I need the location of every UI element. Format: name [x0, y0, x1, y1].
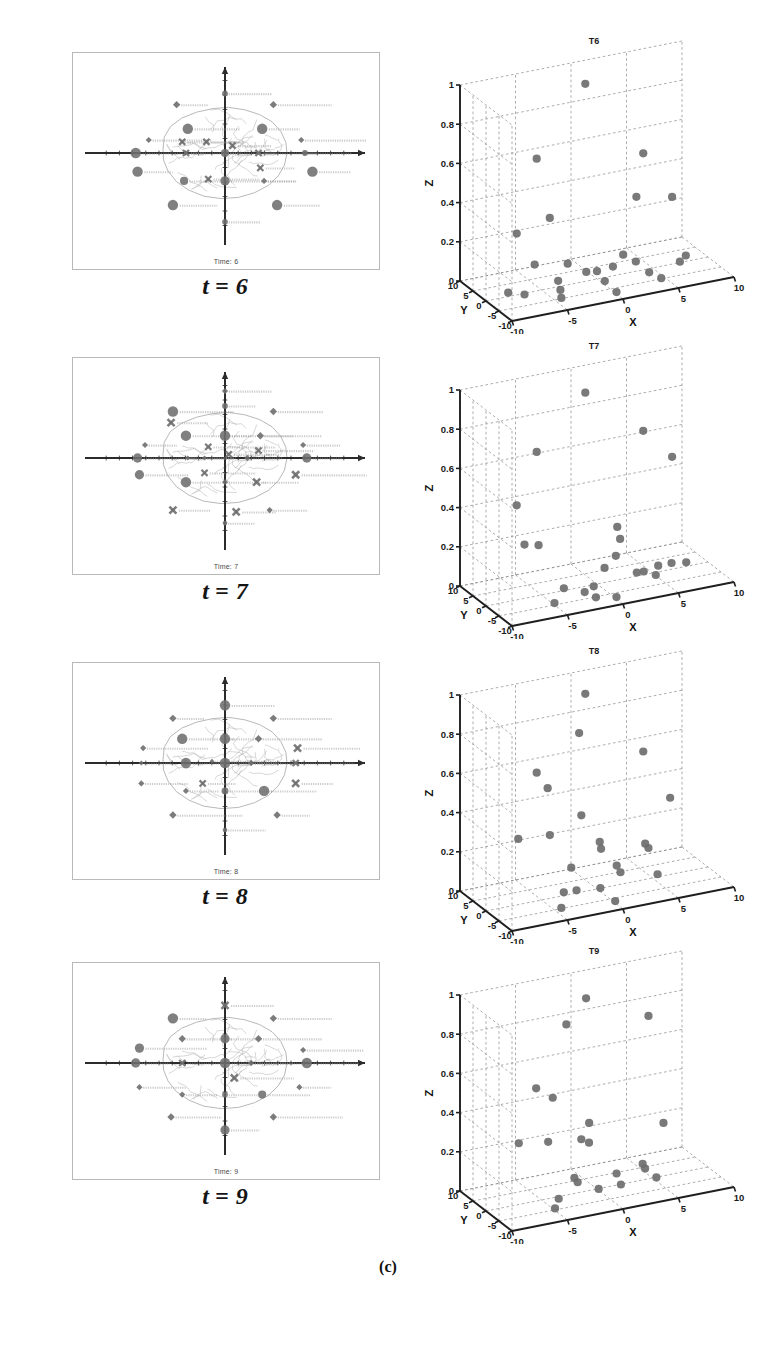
scatter-point	[562, 1020, 570, 1028]
brain-point-circle-marker	[222, 403, 228, 409]
scatter-point	[550, 599, 558, 607]
brain-point-circle-marker	[181, 430, 191, 440]
brain-point-circle-marker	[220, 176, 229, 185]
x-axis-label: X	[629, 926, 637, 938]
brain-point-diamond-marker	[248, 760, 254, 766]
brain-point-circle-marker	[222, 787, 229, 794]
brain-point-cross-marker	[197, 777, 209, 789]
scatter-point	[546, 831, 554, 839]
brain-point-circle-marker	[181, 477, 191, 487]
equals-sign: =	[215, 578, 230, 604]
scatter-point	[668, 193, 676, 201]
brain-point-diamond-marker	[270, 1015, 277, 1022]
svg-text:-5: -5	[568, 620, 577, 631]
scatter-point	[520, 290, 528, 298]
scatter-point	[575, 729, 583, 737]
svg-text:0: 0	[625, 914, 630, 925]
brain-map-panel: Time: 6	[72, 52, 380, 270]
brain-point-circle-marker	[258, 1091, 266, 1099]
brain-point-circle-marker	[177, 734, 187, 744]
scatter-point	[667, 559, 675, 567]
brain-point-circle-marker	[220, 734, 230, 744]
scatter-point	[581, 80, 589, 88]
brain-point-diamond-marker	[139, 761, 144, 766]
svg-text:10: 10	[734, 892, 745, 903]
svg-text:1: 1	[449, 989, 455, 1000]
brain-point-diamond-marker	[273, 811, 280, 818]
brain-point-diamond-marker	[248, 1060, 254, 1066]
z-axis-label: Z	[423, 789, 435, 796]
brain-point-circle-marker	[168, 200, 178, 210]
scatter-point	[582, 994, 590, 1002]
scatter-point	[682, 558, 690, 566]
brain-point-circle-marker	[220, 1125, 229, 1134]
time-value: 6	[236, 273, 248, 299]
panel-time-caption: t = 6	[72, 273, 378, 300]
figure-caption: (c)	[0, 1258, 776, 1276]
svg-text:10: 10	[734, 1192, 745, 1203]
scatter-point	[639, 427, 647, 435]
scatter-point	[546, 214, 554, 222]
time-value: 7	[236, 578, 248, 604]
brain-point-circle-marker	[131, 1058, 140, 1067]
time-variable: t	[202, 273, 209, 299]
svg-text:10: 10	[448, 280, 459, 291]
svg-text:-10: -10	[498, 1230, 512, 1241]
scatter-point	[617, 1180, 625, 1188]
scatter-point	[668, 453, 676, 461]
brain-markers	[133, 388, 367, 525]
brain-map-canvas	[73, 663, 379, 879]
svg-text:-10: -10	[498, 625, 512, 636]
svg-text:10: 10	[448, 1190, 459, 1201]
svg-text:0.4: 0.4	[441, 502, 455, 513]
brain-point-diamond-marker	[257, 432, 264, 439]
plot-gridlines	[460, 41, 734, 321]
scatter-point	[611, 897, 619, 905]
scatter-point	[640, 567, 648, 575]
plot-axes	[460, 995, 734, 1231]
svg-text:-5: -5	[488, 920, 497, 931]
scatter-point	[577, 811, 585, 819]
brain-time-label: Time: 9	[73, 1168, 379, 1175]
scatter3d-title: T7	[418, 341, 770, 351]
brain-point-circle-marker	[135, 470, 144, 479]
scatter-point	[555, 1195, 563, 1203]
brain-point-diamond-marker	[300, 442, 306, 448]
scatter-point	[557, 294, 565, 302]
scatter-point	[564, 260, 572, 268]
time-variable: t	[202, 883, 209, 909]
scatter3d-panel: T800.20.40.60.81-10-505101050-5-10XYZ	[418, 644, 770, 944]
figure-row-t6: Time: 6t = 6T600.20.40.60.81-10-50510105…	[0, 30, 776, 335]
brain-point-diamond-marker	[167, 1113, 174, 1120]
svg-text:10: 10	[734, 282, 745, 293]
brain-point-cross-marker	[229, 505, 243, 519]
scatter-point	[652, 1173, 660, 1181]
panel-time-caption: t = 8	[72, 883, 378, 910]
svg-text:-5: -5	[488, 1220, 497, 1231]
scatter-point	[654, 562, 662, 570]
scatter-point	[513, 230, 521, 238]
brain-point-cross-marker	[254, 162, 266, 174]
scatter3d-panel: T700.20.40.60.81-10-505101050-5-10XYZ	[418, 339, 770, 639]
scatter-point	[596, 838, 604, 846]
time-value: 8	[236, 883, 248, 909]
scatter-point	[644, 844, 652, 852]
figure-row-t7: Time: 7t = 7T700.20.40.60.81-10-50510105…	[0, 335, 776, 640]
scatter-point	[572, 886, 580, 894]
brain-map-canvas	[73, 53, 379, 269]
svg-text:-10: -10	[510, 1236, 524, 1244]
scatter-point	[557, 904, 565, 912]
brain-point-circle-marker	[259, 786, 269, 796]
brain-point-circle-marker	[180, 177, 188, 185]
scatter-point	[609, 263, 617, 271]
z-axis-label: Z	[423, 1089, 435, 1096]
svg-text:5: 5	[463, 595, 469, 606]
plot-tick-labels: 00.20.40.60.81-10-505101050-5-10XYZ	[423, 384, 744, 639]
brain-point-diamond-marker	[255, 735, 262, 742]
equals-sign: =	[215, 273, 230, 299]
svg-text:0.6: 0.6	[441, 158, 454, 169]
brain-point-diamond-marker	[261, 178, 267, 184]
brain-point-circle-marker	[220, 1058, 230, 1068]
figure-row-t8: Time: 8t = 8T800.20.40.60.81-10-50510105…	[0, 640, 776, 945]
scatter3d-title: T6	[418, 36, 770, 46]
